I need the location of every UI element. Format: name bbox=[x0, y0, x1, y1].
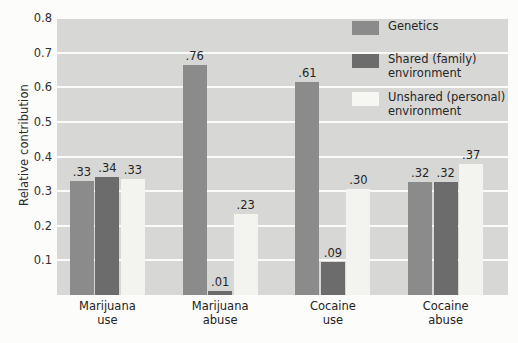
x-axis-category-label: Marijuanause bbox=[47, 299, 167, 327]
legend-item: Genetics bbox=[352, 20, 512, 42]
legend: GeneticsShared (family)environmentUnshar… bbox=[352, 20, 512, 129]
bar-value-label: .23 bbox=[236, 198, 254, 212]
legend-item: Shared (family)environment bbox=[352, 53, 512, 80]
bar-value-label: .30 bbox=[349, 173, 367, 187]
bar-value-label: .09 bbox=[324, 246, 342, 260]
y-axis-tick-label: 0.7 bbox=[18, 46, 52, 60]
bar-fill bbox=[346, 189, 370, 295]
bar-value-label: .37 bbox=[462, 148, 480, 162]
x-axis-category-label-line: abuse bbox=[386, 313, 506, 327]
legend-swatch bbox=[352, 92, 379, 106]
legend-label-line: environment bbox=[388, 67, 512, 81]
y-axis-tick-label: 0.5 bbox=[18, 115, 52, 129]
y-axis-tick-label: 0.6 bbox=[18, 80, 52, 94]
x-axis-category-label-line: use bbox=[47, 313, 167, 327]
bar-fill bbox=[321, 262, 345, 295]
x-axis-category-label-line: Marijuana bbox=[160, 299, 280, 313]
bar-value-label: .33 bbox=[124, 163, 142, 177]
bar-fill bbox=[121, 179, 145, 295]
bar-fill bbox=[408, 182, 432, 295]
bar-value-label: .32 bbox=[411, 166, 429, 180]
bar: .37 bbox=[459, 164, 483, 295]
bar-value-label: .33 bbox=[73, 165, 91, 179]
legend-label: Unshared (personal)environment bbox=[388, 91, 512, 118]
bar-fill bbox=[183, 65, 207, 295]
x-axis-category-label-line: use bbox=[273, 313, 393, 327]
x-axis-category-label: Cocaineuse bbox=[273, 299, 393, 327]
bar: .32 bbox=[434, 182, 458, 295]
bar: .34 bbox=[95, 177, 119, 295]
x-axis-category-label: Cocaineabuse bbox=[386, 299, 506, 327]
bar: .09 bbox=[321, 262, 345, 295]
bar-value-label: .32 bbox=[436, 166, 454, 180]
bar-fill bbox=[95, 177, 119, 295]
bar-value-label: .01 bbox=[211, 275, 229, 289]
bar-fill bbox=[70, 181, 94, 295]
x-axis-category-label: Marijuanaabuse bbox=[160, 299, 280, 327]
bar: .01 bbox=[208, 291, 232, 295]
legend-label-line: Shared (family) bbox=[388, 53, 512, 67]
bar: .23 bbox=[234, 214, 258, 295]
bar-fill bbox=[295, 82, 319, 295]
bar-value-label: .61 bbox=[298, 66, 316, 80]
legend-swatch bbox=[352, 21, 379, 35]
bar-fill bbox=[459, 164, 483, 295]
bar: .33 bbox=[121, 179, 145, 295]
legend-label-line: environment bbox=[388, 105, 512, 119]
legend-label-line: Genetics bbox=[388, 20, 512, 34]
legend-item: Unshared (personal)environment bbox=[352, 91, 512, 118]
bar: .33 bbox=[70, 181, 94, 295]
bar-group: .76.01.23 bbox=[183, 18, 258, 295]
x-axis-category-label-line: abuse bbox=[160, 313, 280, 327]
x-axis-category-label-line: Marijuana bbox=[47, 299, 167, 313]
y-axis-tick-label: 0.3 bbox=[18, 184, 52, 198]
x-axis-category-label-line: Cocaine bbox=[273, 299, 393, 313]
bar: .76 bbox=[183, 65, 207, 295]
bar: .30 bbox=[346, 189, 370, 295]
bar-fill bbox=[234, 214, 258, 295]
bar: .32 bbox=[408, 182, 432, 295]
bar: .61 bbox=[295, 82, 319, 295]
bar-group: .33.34.33 bbox=[70, 18, 145, 295]
y-axis-tick-label: 0.4 bbox=[18, 150, 52, 164]
legend-label: Genetics bbox=[388, 20, 512, 34]
bar-value-label: .34 bbox=[98, 161, 116, 175]
legend-label: Shared (family)environment bbox=[388, 53, 512, 80]
y-axis-tick-label: 0.1 bbox=[18, 253, 52, 267]
bar-fill bbox=[208, 291, 232, 295]
y-axis-tick-labels: 0.80.70.60.50.40.30.20.1 bbox=[12, 0, 52, 343]
bar-fill bbox=[434, 182, 458, 295]
bar-value-label: .76 bbox=[185, 49, 203, 63]
x-axis-category-label-line: Cocaine bbox=[386, 299, 506, 313]
legend-label-line: Unshared (personal) bbox=[388, 91, 512, 105]
bar-chart-figure: Relative contribution 0.80.70.60.50.40.3… bbox=[0, 0, 518, 343]
y-axis-tick-label: 0.8 bbox=[18, 11, 52, 25]
legend-swatch bbox=[352, 54, 379, 68]
y-axis-tick-label: 0.2 bbox=[18, 219, 52, 233]
